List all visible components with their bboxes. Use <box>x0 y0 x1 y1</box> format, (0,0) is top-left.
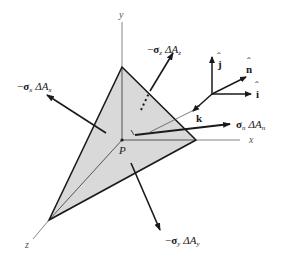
i-hat-caret: ˆ <box>255 79 259 91</box>
neg-sigma-x-label: −σxΔAx <box>17 80 53 94</box>
j-hat-caret: ˆ <box>217 50 221 62</box>
point-P-label: P <box>118 144 126 156</box>
neg-sigma-x-arrow <box>47 95 106 133</box>
z-axis <box>33 220 49 239</box>
k-hat-caret: ˆ <box>196 103 200 115</box>
neg-sigma-z-label: −σzΔAz <box>147 43 181 57</box>
n-hat-caret: ˆ <box>247 55 251 67</box>
point-P-dot <box>120 138 123 141</box>
neg-sigma-y-label: −σyΔAy <box>165 234 201 248</box>
stress-tetrahedron-diagram: y x z P j <box>0 0 283 257</box>
y-axis-label: y <box>118 9 124 20</box>
z-axis-label: z <box>24 239 29 250</box>
sigma-n-label: σnΔAn <box>236 118 266 132</box>
unit-vector-triad: j ˆ i ˆ n ˆ k ˆ <box>193 50 259 124</box>
neg-sigma-y-arrow <box>131 163 160 230</box>
x-axis-label: x <box>248 134 254 145</box>
neg-sigma-z-arrow <box>150 53 173 91</box>
n-hat-arrow <box>212 77 246 94</box>
